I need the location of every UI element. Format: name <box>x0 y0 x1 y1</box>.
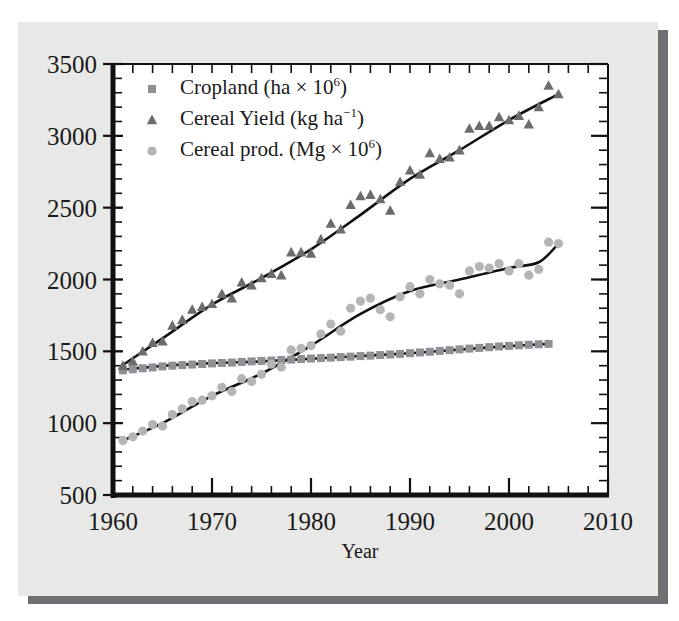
data-point-circle <box>277 363 286 372</box>
data-point-circle <box>504 266 513 275</box>
data-point-square <box>416 348 424 356</box>
data-point-square <box>465 345 473 353</box>
data-point-square <box>545 340 553 348</box>
data-point-square <box>248 357 256 365</box>
data-point-square <box>178 361 186 369</box>
y-tick-label: 2500 <box>47 195 97 222</box>
data-point-circle <box>316 329 325 338</box>
legend-label: Cereal prod. (Mg × 106) <box>180 136 382 161</box>
data-point-square <box>129 365 137 373</box>
data-point-circle <box>346 304 355 313</box>
data-point-circle <box>356 296 365 305</box>
data-point-circle <box>415 289 424 298</box>
x-tick-label: 2010 <box>583 508 633 535</box>
data-point-square <box>406 349 414 357</box>
data-point-circle <box>425 275 434 284</box>
legend-marker-circle <box>147 146 156 155</box>
data-point-circle <box>128 432 137 441</box>
data-point-circle <box>455 289 464 298</box>
legend-label-main: Cereal prod. (Mg × 10 <box>180 137 369 161</box>
legend-label-tail: ) <box>375 137 382 161</box>
data-point-circle <box>168 410 177 419</box>
data-point-circle <box>287 345 296 354</box>
data-point-circle <box>267 360 276 369</box>
legend-label: Cereal Yield (kg ha−1) <box>180 105 364 130</box>
data-point-square <box>475 344 483 352</box>
data-point-circle <box>386 312 395 321</box>
y-tick-label: 1500 <box>47 338 97 365</box>
data-point-square <box>535 340 543 348</box>
data-point-circle <box>514 259 523 268</box>
y-tick-label: 2000 <box>47 267 97 294</box>
data-point-square <box>426 348 434 356</box>
data-point-circle <box>306 341 315 350</box>
data-point-square <box>228 359 236 367</box>
data-point-circle <box>326 319 335 328</box>
legend-label-tail: ) <box>340 75 347 99</box>
data-point-square <box>258 357 266 365</box>
data-point-circle <box>207 391 216 400</box>
data-point-square <box>347 353 355 361</box>
data-point-square <box>446 346 454 354</box>
data-point-circle <box>148 420 157 429</box>
data-point-square <box>218 359 226 367</box>
data-point-square <box>238 358 246 366</box>
data-point-circle <box>247 377 256 386</box>
y-axis-tick-labels: 500100015002000250030003500 <box>47 51 97 509</box>
data-point-circle <box>376 305 385 314</box>
x-axis-tick-labels: 196019701980199020002010 <box>88 508 633 535</box>
data-point-circle <box>435 279 444 288</box>
data-point-circle <box>297 344 306 353</box>
data-point-square <box>168 362 176 370</box>
legend-label-superscript: −1 <box>343 105 357 120</box>
y-tick-label: 500 <box>60 482 98 509</box>
data-point-square <box>456 345 464 353</box>
data-point-circle <box>257 370 266 379</box>
data-point-circle <box>485 263 494 272</box>
data-point-square <box>327 354 335 362</box>
chart-legend: Cropland (ha × 106)Cereal Yield (kg ha−1… <box>147 74 382 161</box>
x-tick-label: 1990 <box>385 508 435 535</box>
x-tick-label: 1980 <box>286 508 336 535</box>
data-point-circle <box>227 387 236 396</box>
y-tick-label: 1000 <box>47 410 97 437</box>
y-tick-label: 3500 <box>47 51 97 78</box>
x-tick-label: 1960 <box>88 508 138 535</box>
data-point-circle <box>495 259 504 268</box>
legend-label: Cropland (ha × 106) <box>180 74 347 99</box>
x-tick-label: 2000 <box>484 508 534 535</box>
data-point-circle <box>534 265 543 274</box>
data-point-circle <box>217 383 226 392</box>
data-point-square <box>495 342 503 350</box>
data-point-square <box>188 361 196 369</box>
data-point-circle <box>198 396 207 405</box>
data-point-square <box>505 342 513 350</box>
data-point-square <box>208 359 216 367</box>
data-point-square <box>515 341 523 349</box>
data-point-square <box>396 350 404 358</box>
figure-root: 500100015002000250030003500 196019701980… <box>0 0 679 621</box>
legend-label-tail: ) <box>357 106 364 130</box>
data-point-circle <box>465 266 474 275</box>
data-point-circle <box>138 426 147 435</box>
data-point-circle <box>396 292 405 301</box>
data-point-circle <box>524 271 533 280</box>
data-point-square <box>149 363 157 371</box>
data-point-square <box>376 351 384 359</box>
data-point-square <box>337 353 345 361</box>
data-point-circle <box>336 327 345 336</box>
data-point-square <box>436 347 444 355</box>
data-point-circle <box>188 397 197 406</box>
data-point-circle <box>366 294 375 303</box>
data-point-circle <box>445 281 454 290</box>
data-point-square <box>366 352 374 360</box>
data-point-square <box>317 354 325 362</box>
x-axis-title: Year <box>342 540 379 562</box>
legend-label-main: Cereal Yield (kg ha <box>180 106 344 130</box>
data-point-circle <box>544 238 553 247</box>
data-point-square <box>357 352 365 360</box>
data-point-square <box>307 355 315 363</box>
data-point-circle <box>118 436 127 445</box>
data-point-circle <box>554 239 563 248</box>
data-point-square <box>198 360 206 368</box>
